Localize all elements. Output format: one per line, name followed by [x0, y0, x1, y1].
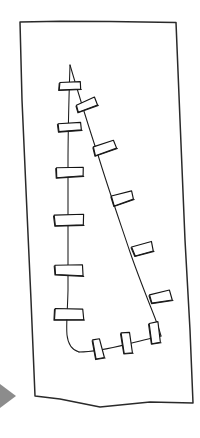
staple-mark — [54, 308, 84, 320]
staple-mark — [57, 122, 82, 132]
canvas-background — [0, 0, 200, 438]
staple-outline — [54, 308, 83, 319]
staple-mark — [54, 265, 83, 277]
staple-outline — [54, 214, 84, 226]
staple-mark — [58, 81, 81, 91]
expand-arrow-shape[interactable] — [0, 384, 16, 408]
expand-arrow-icon[interactable] — [0, 384, 16, 408]
staple-outline — [55, 265, 83, 276]
staple-outline — [59, 81, 81, 90]
staple-mark — [54, 214, 84, 226]
staple-mark — [56, 167, 84, 178]
sketch-canvas — [0, 0, 200, 438]
